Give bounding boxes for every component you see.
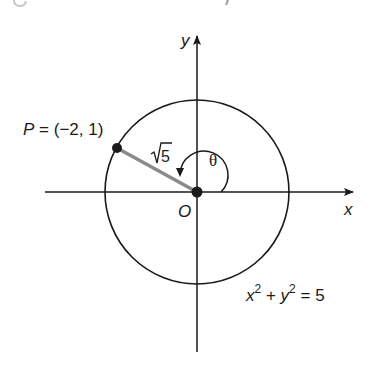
circle-equation: x2 + y2 = 5 bbox=[245, 282, 325, 305]
radius-value: 5 bbox=[161, 148, 170, 165]
equation-rhs: 5 bbox=[315, 286, 324, 305]
radius-segment bbox=[117, 148, 197, 192]
point-p-name: P bbox=[23, 120, 35, 139]
x-axis-label: x bbox=[343, 200, 353, 219]
origin-point bbox=[192, 187, 203, 198]
point-p-label: P = (−2, 1) bbox=[23, 120, 103, 139]
diagram-canvas: y x O P = (−2, 1) 5 θ x2 + y2 = 5 bbox=[0, 0, 375, 391]
equation-x: x bbox=[245, 286, 255, 305]
point-p-coords: (−2, 1) bbox=[54, 120, 104, 139]
equation-plus: + bbox=[261, 286, 280, 305]
clipped-caption-fragments bbox=[14, 0, 228, 6]
equation-equals: = bbox=[296, 286, 315, 305]
y-axis-label: y bbox=[180, 31, 191, 50]
point-p bbox=[112, 143, 122, 153]
origin-label: O bbox=[178, 202, 191, 221]
diagram-figure: y x O P = (−2, 1) 5 θ x2 + y2 = 5 bbox=[0, 0, 375, 391]
point-p-equals: = bbox=[34, 120, 53, 139]
radius-label: 5 bbox=[151, 143, 172, 165]
angle-theta-label: θ bbox=[209, 151, 217, 170]
